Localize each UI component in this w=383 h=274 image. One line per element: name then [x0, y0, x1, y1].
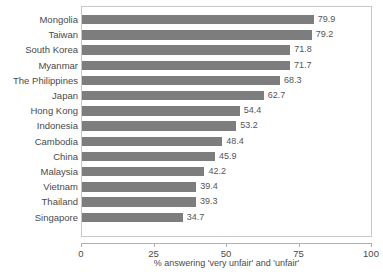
- bar: [82, 182, 196, 191]
- bar-rows: Mongolia79.9Taiwan79.2South Korea71.8Mya…: [0, 6, 383, 237]
- category-label: Cambodia: [0, 134, 78, 149]
- bar: [82, 30, 312, 39]
- bar-value-label: 42.2: [208, 164, 226, 179]
- x-axis-label: % answering 'very unfair' and 'unfair': [81, 258, 372, 268]
- bar-value-label: 71.8: [294, 42, 312, 57]
- bar: [82, 45, 290, 54]
- x-tick-mark: [226, 243, 227, 247]
- category-label: Mongolia: [0, 12, 78, 27]
- category-label: The Philippines: [0, 73, 78, 88]
- bar: [82, 91, 264, 100]
- bar: [82, 106, 240, 115]
- bar: [82, 137, 222, 146]
- bar-row: Singapore34.7: [0, 210, 383, 225]
- bar-value-label: 34.7: [187, 210, 205, 225]
- category-label: Singapore: [0, 210, 78, 225]
- bar-row: Malaysia42.2: [0, 164, 383, 179]
- bar: [82, 152, 215, 161]
- bar: [82, 76, 280, 85]
- bar: [82, 121, 236, 130]
- bar-row: Thailand39.3: [0, 194, 383, 209]
- bar-row: Japan62.7: [0, 88, 383, 103]
- bar-row: Hong Kong54.4: [0, 103, 383, 118]
- x-tick-mark: [81, 243, 82, 247]
- bar-value-label: 79.9: [318, 12, 336, 27]
- bar-value-label: 45.9: [219, 149, 237, 164]
- bar: [82, 213, 183, 222]
- category-label: Taiwan: [0, 27, 78, 42]
- category-label: Thailand: [0, 194, 78, 209]
- category-label: China: [0, 149, 78, 164]
- category-label: Japan: [0, 88, 78, 103]
- x-tick-mark: [371, 243, 372, 247]
- bar: [82, 61, 290, 70]
- bar-row: The Philippines68.3: [0, 73, 383, 88]
- bar-value-label: 79.2: [316, 27, 334, 42]
- bar-row: China45.9: [0, 149, 383, 164]
- bar-value-label: 39.4: [200, 179, 218, 194]
- category-label: Indonesia: [0, 118, 78, 133]
- bar-value-label: 62.7: [268, 88, 286, 103]
- bar-value-label: 48.4: [226, 134, 244, 149]
- bar-value-label: 53.2: [240, 118, 258, 133]
- category-label: South Korea: [0, 42, 78, 57]
- bar-value-label: 68.3: [284, 73, 302, 88]
- x-tick-mark: [299, 243, 300, 247]
- bar-row: Taiwan79.2: [0, 27, 383, 42]
- bar-row: Mongolia79.9: [0, 12, 383, 27]
- bar-value-label: 39.3: [200, 194, 218, 209]
- bar: [82, 167, 204, 176]
- bar-value-label: 54.4: [244, 103, 262, 118]
- category-label: Myanmar: [0, 58, 78, 73]
- bar-row: Myanmar71.7: [0, 58, 383, 73]
- bar-row: Indonesia53.2: [0, 118, 383, 133]
- bar-value-label: 71.7: [294, 58, 312, 73]
- x-tick-mark: [154, 243, 155, 247]
- category-label: Vietnam: [0, 179, 78, 194]
- bar: [82, 197, 196, 206]
- bar-chart: Mongolia79.9Taiwan79.2South Korea71.8Mya…: [0, 0, 383, 274]
- category-label: Malaysia: [0, 164, 78, 179]
- bar-row: South Korea71.8: [0, 42, 383, 57]
- bar: [82, 15, 314, 24]
- category-label: Hong Kong: [0, 103, 78, 118]
- bar-row: Vietnam39.4: [0, 179, 383, 194]
- bar-row: Cambodia48.4: [0, 134, 383, 149]
